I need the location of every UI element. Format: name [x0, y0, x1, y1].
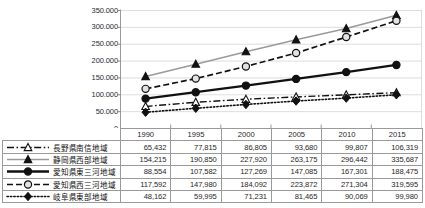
data-point-marker — [192, 89, 199, 96]
marker-circle — [142, 85, 149, 92]
table-corner-cell — [3, 129, 121, 141]
data-point-marker — [142, 95, 149, 102]
legend-marker-triangle-open — [6, 142, 50, 153]
legend-marker-triangle-filled — [6, 154, 50, 165]
marker-circle — [142, 95, 149, 102]
table-cell-value: 90,069 — [322, 190, 372, 202]
table-header-year-2010: 2010 — [322, 129, 372, 141]
marker-circle — [292, 49, 299, 56]
table-cell-value: 319,595 — [372, 178, 422, 190]
table-cell-value: 223,872 — [271, 178, 321, 190]
legend-cell-4: 岐阜県東部地域 — [3, 190, 121, 202]
table-cell-value: 99,980 — [372, 190, 422, 202]
table-cell-value: 271,304 — [322, 178, 372, 190]
table-cell-value: 117,592 — [121, 178, 171, 190]
data-point-marker — [242, 82, 249, 89]
table-cell-value: 154,215 — [121, 153, 171, 165]
legend-entry: 長野県南信地域 — [6, 141, 118, 152]
legend-marker-circle-filled — [6, 166, 50, 177]
table-cell-value: 227,920 — [221, 153, 271, 165]
table-cell-value: 106,319 — [372, 141, 422, 153]
table-cell-value: 190,850 — [171, 153, 221, 165]
table-header-year-2000: 2000 — [221, 129, 271, 141]
table-cell-value: 88,554 — [121, 166, 171, 178]
marker-circle — [24, 181, 31, 188]
series-data-table: 199019952000200520102015 長野県南信地域65,43277… — [2, 128, 423, 203]
marker-diamond — [393, 91, 400, 99]
table-cell-value: 263,175 — [271, 153, 321, 165]
table-cell-value: 93,680 — [271, 141, 321, 153]
table-row: 愛知県西三河地域117,592147,980184,092223,872271,… — [3, 178, 423, 190]
data-point-marker — [192, 75, 199, 82]
table-cell-value: 296,442 — [322, 153, 372, 165]
marker-circle — [393, 17, 400, 24]
data-point-marker — [292, 49, 299, 56]
marker-circle — [242, 82, 249, 89]
legend-label: 岐阜県東部地域 — [53, 191, 108, 202]
legend-marker-diamond-filled — [6, 191, 50, 202]
series-line — [146, 21, 397, 89]
chart-canvas — [0, 0, 425, 133]
table-cell-value: 167,301 — [322, 166, 372, 178]
legend-cell-2: 愛知県東三河地域 — [3, 166, 121, 178]
data-point-marker — [24, 181, 31, 188]
data-point-marker — [292, 75, 299, 82]
table-cell-value: 147,085 — [271, 166, 321, 178]
table-cell-value: 188,475 — [372, 166, 422, 178]
table-row: 岐阜県東部地域48,16259,99571,23181,46590,06999,… — [3, 190, 423, 202]
data-point-marker — [393, 17, 400, 24]
table-cell-value: 147,980 — [171, 178, 221, 190]
legend-cell-0: 長野県南信地域 — [3, 141, 121, 153]
table-row: 静岡県西部地域154,215190,850227,920263,175296,4… — [3, 153, 423, 165]
series-line — [146, 15, 397, 76]
table-cell-value: 86,805 — [221, 141, 271, 153]
table-header-year-2015: 2015 — [372, 129, 422, 141]
data-point-marker — [242, 63, 249, 70]
data-point-marker — [393, 91, 400, 99]
marker-circle — [242, 63, 249, 70]
data-point-marker — [393, 61, 400, 68]
table-header-year-1995: 1995 — [171, 129, 221, 141]
legend-label: 愛知県東三河地域 — [53, 166, 115, 177]
data-point-marker — [343, 33, 350, 40]
marker-circle — [292, 75, 299, 82]
legend-label: 愛知県西三河地域 — [53, 179, 115, 190]
table-cell-value: 59,995 — [171, 190, 221, 202]
marker-circle — [343, 68, 350, 75]
table-row: 長野県南信地域65,43277,81586,80593,68099,807106… — [3, 141, 423, 153]
legend-entry: 愛知県西三河地域 — [6, 179, 118, 190]
table-cell-value: 107,582 — [171, 166, 221, 178]
legend-entry: 岐阜県東部地域 — [6, 191, 118, 202]
marker-circle — [343, 33, 350, 40]
line-chart-plot: 050.000100.000150.000200.000250.000300.0… — [0, 0, 425, 133]
legend-cell-1: 静岡県西部地域 — [3, 153, 121, 165]
chart-series — [142, 89, 400, 110]
data-point-marker — [24, 168, 31, 175]
marker-circle — [24, 168, 31, 175]
table-cell-value: 71,231 — [221, 190, 271, 202]
table-cell-value: 81,465 — [271, 190, 321, 202]
table-row: 愛知県東三河地域88,554107,582127,269147,085167,3… — [3, 166, 423, 178]
legend-entry: 愛知県東三河地域 — [6, 166, 118, 177]
table-cell-value: 48,162 — [121, 190, 171, 202]
table-header-year-2005: 2005 — [271, 129, 321, 141]
chart-with-data-table: 050.000100.000150.000200.000250.000300.0… — [0, 0, 425, 208]
legend-cell-3: 愛知県西三河地域 — [3, 178, 121, 190]
table-cell-value: 184,092 — [221, 178, 271, 190]
legend-entry: 静岡県西部地域 — [6, 154, 118, 165]
marker-diamond — [24, 192, 31, 200]
table-cell-value: 65,432 — [121, 141, 171, 153]
marker-circle — [393, 61, 400, 68]
data-point-marker — [24, 192, 31, 200]
table-body: 長野県南信地域65,43277,81586,80593,68099,807106… — [3, 141, 423, 203]
marker-circle — [192, 75, 199, 82]
legend-label: 静岡県西部地域 — [53, 154, 108, 165]
legend-marker-circle-open — [6, 179, 50, 190]
table-cell-value: 335,687 — [372, 153, 422, 165]
data-point-marker — [343, 68, 350, 75]
data-point-marker — [142, 85, 149, 92]
table-cell-value: 77,815 — [171, 141, 221, 153]
table-cell-value: 99,807 — [322, 141, 372, 153]
table-header-year-1990: 1990 — [121, 129, 171, 141]
table-cell-value: 127,269 — [221, 166, 271, 178]
